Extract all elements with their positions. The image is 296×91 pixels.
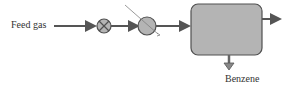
process-flow-diagram	[0, 0, 296, 91]
benzene-outlet-arrow	[224, 55, 234, 70]
heat-exchanger-icon	[125, 5, 160, 36]
valve-icon	[97, 19, 111, 33]
vessel-box	[191, 4, 262, 55]
